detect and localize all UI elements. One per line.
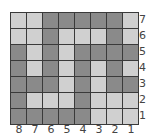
column-label: 7	[27, 123, 43, 136]
board-cell[interactable]	[123, 77, 138, 92]
board-cell[interactable]	[27, 13, 42, 28]
column-labels: 87654321	[11, 123, 139, 136]
board-cell[interactable]	[59, 45, 74, 60]
board-cell[interactable]	[59, 13, 74, 28]
row-label: 4	[139, 60, 146, 76]
board-cell[interactable]	[27, 93, 42, 108]
board-cell[interactable]	[43, 45, 58, 60]
board-cell[interactable]	[123, 61, 138, 76]
column-label: 2	[107, 123, 123, 136]
board-cell[interactable]	[107, 109, 122, 124]
board-cell[interactable]	[91, 29, 106, 44]
board-cell[interactable]	[91, 61, 106, 76]
row-label: 3	[139, 76, 146, 92]
row-labels: 7654321	[139, 12, 146, 124]
board-cell[interactable]	[27, 29, 42, 44]
row-label: 6	[139, 28, 146, 44]
board-cell[interactable]	[43, 93, 58, 108]
board-cell[interactable]	[107, 45, 122, 60]
game-board	[10, 12, 139, 125]
board-cell[interactable]	[59, 109, 74, 124]
board-cell[interactable]	[75, 109, 90, 124]
game-board-wrapper	[10, 12, 139, 125]
board-cell[interactable]	[59, 93, 74, 108]
row-label: 5	[139, 44, 146, 60]
board-cell[interactable]	[91, 13, 106, 28]
board-cell[interactable]	[107, 77, 122, 92]
board-cell[interactable]	[107, 13, 122, 28]
board-cell[interactable]	[43, 77, 58, 92]
board-cell[interactable]	[43, 29, 58, 44]
board-cell[interactable]	[11, 61, 26, 76]
board-cell[interactable]	[43, 13, 58, 28]
board-cell[interactable]	[91, 45, 106, 60]
board-cell[interactable]	[75, 77, 90, 92]
board-cell[interactable]	[27, 109, 42, 124]
board-cell[interactable]	[59, 61, 74, 76]
board-cell[interactable]	[123, 29, 138, 44]
board-cell[interactable]	[75, 13, 90, 28]
column-label: 5	[59, 123, 75, 136]
board-cell[interactable]	[11, 45, 26, 60]
board-cell[interactable]	[107, 29, 122, 44]
board-cell[interactable]	[123, 93, 138, 108]
board-cell[interactable]	[11, 93, 26, 108]
board-cell[interactable]	[91, 109, 106, 124]
board-cell[interactable]	[11, 109, 26, 124]
board-cell[interactable]	[43, 109, 58, 124]
board-cell[interactable]	[59, 29, 74, 44]
column-label: 4	[75, 123, 91, 136]
board-cell[interactable]	[123, 45, 138, 60]
board-cell[interactable]	[91, 93, 106, 108]
row-label: 1	[139, 108, 146, 124]
board-cell[interactable]	[91, 77, 106, 92]
board-cell[interactable]	[123, 13, 138, 28]
board-cell[interactable]	[75, 93, 90, 108]
board-cell[interactable]	[59, 77, 74, 92]
board-cell[interactable]	[11, 13, 26, 28]
board-cell[interactable]	[107, 61, 122, 76]
board-cell[interactable]	[123, 109, 138, 124]
board-cell[interactable]	[11, 29, 26, 44]
board-cell[interactable]	[107, 93, 122, 108]
board-cell[interactable]	[11, 77, 26, 92]
column-label: 1	[123, 123, 139, 136]
column-label: 3	[91, 123, 107, 136]
board-cell[interactable]	[43, 61, 58, 76]
board-cell[interactable]	[75, 29, 90, 44]
board-cell[interactable]	[27, 45, 42, 60]
board-cell[interactable]	[75, 45, 90, 60]
row-label: 7	[139, 12, 146, 28]
board-cell[interactable]	[27, 61, 42, 76]
row-label: 2	[139, 92, 146, 108]
column-label: 8	[11, 123, 27, 136]
board-cell[interactable]	[27, 77, 42, 92]
column-label: 6	[43, 123, 59, 136]
board-cell[interactable]	[75, 61, 90, 76]
